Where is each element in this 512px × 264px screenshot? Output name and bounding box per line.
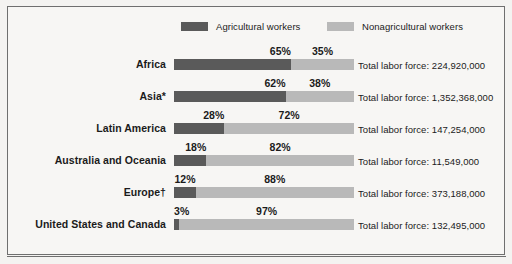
row-pct-nonagricultural: 88% <box>245 173 305 185</box>
row-total-labor-force: Total labor force: 147,254,000 <box>358 124 485 135</box>
row-pct-nonagricultural: 35% <box>293 45 353 57</box>
row-pct-nonagricultural: 38% <box>290 77 350 89</box>
row-label: Europe† <box>124 186 166 198</box>
chart-row: United States and Canada 3% 97% Total la… <box>8 201 506 233</box>
bottom-divider <box>7 256 506 257</box>
row-label: United States and Canada <box>35 218 166 230</box>
bar-segment-nonagricultural <box>179 219 354 230</box>
legend-item-agricultural: Agricultural workers <box>181 18 300 34</box>
legend-label-nonagricultural: Nonagricultural workers <box>362 21 463 32</box>
chart-legend: Agricultural workers Nonagricultural wor… <box>181 18 481 34</box>
row-label: Latin America <box>96 122 166 134</box>
bar-segment-nonagricultural <box>206 155 354 166</box>
bar-segment-agricultural <box>174 187 196 198</box>
legend-item-nonagricultural: Nonagricultural workers <box>327 18 463 34</box>
row-pct-agricultural: 65% <box>231 45 291 57</box>
legend-swatch-agricultural-icon <box>181 22 208 31</box>
row-bar <box>174 59 354 70</box>
row-pct-agricultural: 18% <box>146 141 206 153</box>
row-bar <box>174 91 354 102</box>
row-bar <box>174 187 354 198</box>
row-pct-nonagricultural: 82% <box>250 141 310 153</box>
row-label: Africa <box>136 58 166 70</box>
legend-label-agricultural: Agricultural workers <box>216 21 300 32</box>
legend-swatch-nonagricultural-icon <box>327 22 354 31</box>
row-total-labor-force: Total labor force: 1,352,368,000 <box>358 92 493 103</box>
row-total-labor-force: Total labor force: 11,549,000 <box>358 156 479 167</box>
bar-segment-nonagricultural <box>291 59 354 70</box>
chart-figure: Agricultural workers Nonagricultural wor… <box>0 0 512 264</box>
row-bar <box>174 219 354 230</box>
chart-row: Asia* 62% 38% Total labor force: 1,352,3… <box>8 73 506 105</box>
bar-segment-nonagricultural <box>224 123 354 134</box>
row-label: Asia* <box>139 90 166 102</box>
row-label: Australia and Oceania <box>55 154 166 166</box>
chart-row: Europe† 12% 88% Total labor force: 373,1… <box>8 169 506 201</box>
row-pct-nonagricultural: 72% <box>259 109 319 121</box>
bar-segment-agricultural <box>174 155 206 166</box>
row-pct-nonagricultural: 97% <box>237 205 297 217</box>
chart-row: Australia and Oceania 18% 82% Total labo… <box>8 137 506 169</box>
row-total-labor-force: Total labor force: 224,920,000 <box>358 60 485 71</box>
chart-row: Africa 65% 35% Total labor force: 224,92… <box>8 41 506 73</box>
chart-row: Latin America 28% 72% Total labor force:… <box>8 105 506 137</box>
bar-segment-nonagricultural <box>286 91 354 102</box>
bar-segment-agricultural <box>174 123 224 134</box>
bar-segment-nonagricultural <box>196 187 354 198</box>
row-pct-agricultural: 3% <box>174 205 234 217</box>
row-pct-agricultural: 62% <box>226 77 286 89</box>
chart-panel: Agricultural workers Nonagricultural wor… <box>7 6 505 255</box>
bar-segment-agricultural <box>174 59 291 70</box>
row-bar <box>174 155 354 166</box>
row-pct-agricultural: 12% <box>136 173 196 185</box>
row-total-labor-force: Total labor force: 373,188,000 <box>358 188 485 199</box>
row-bar <box>174 123 354 134</box>
row-pct-agricultural: 28% <box>164 109 224 121</box>
bar-segment-agricultural <box>174 91 286 102</box>
row-total-labor-force: Total labor force: 132,495,000 <box>358 220 485 231</box>
